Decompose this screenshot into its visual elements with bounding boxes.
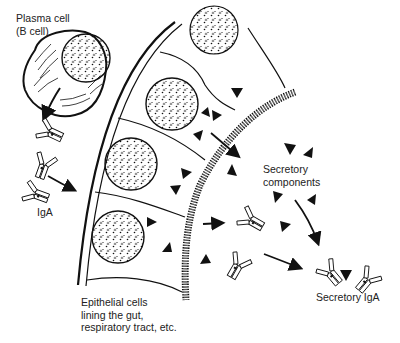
secretory-components-label: Secretory components	[263, 163, 320, 188]
secretory-components-label-line1: Secretory	[263, 163, 320, 176]
plasma-cell-label-line2: (B cell)	[16, 25, 70, 38]
iga-molecules	[21, 117, 74, 209]
secretory-iga-label: Secretory IgA	[316, 291, 380, 304]
transport-arrows	[203, 133, 318, 268]
epithelial-cells-label: Epithelial cells lining the gut, respira…	[81, 296, 177, 334]
epithelial-cells-label-line2: lining the gut,	[81, 309, 177, 322]
luminal-iga	[222, 205, 268, 283]
epithelial-cells-label-line1: Epithelial cells	[81, 296, 177, 309]
iga-label: IgA	[37, 206, 53, 219]
iga-secretion-diagram: Plasma cell (B cell) IgA Secretory compo…	[0, 0, 400, 343]
plasma-cell	[23, 31, 110, 118]
epithelial-cells-label-line3: respiratory tract, etc.	[81, 321, 177, 334]
plasma-cell-label: Plasma cell (B cell)	[16, 12, 70, 37]
secretory-components-label-line2: components	[263, 176, 320, 189]
plasma-cell-label-line1: Plasma cell	[16, 12, 70, 25]
